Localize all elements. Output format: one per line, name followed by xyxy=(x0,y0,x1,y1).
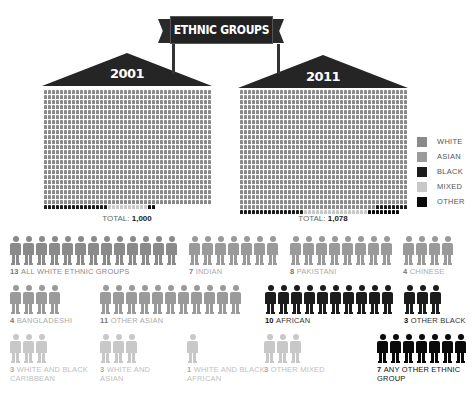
person-icon xyxy=(264,170,267,174)
person-icon xyxy=(100,125,103,129)
person-icon xyxy=(112,195,115,199)
person-icon xyxy=(280,190,283,194)
person-icon xyxy=(108,115,111,119)
person-icon xyxy=(116,185,119,189)
person-icon xyxy=(120,125,123,129)
person-icon xyxy=(152,135,155,139)
person-icon xyxy=(56,90,59,94)
person-icon xyxy=(404,135,407,139)
person-icon xyxy=(136,190,139,194)
person-icon xyxy=(344,120,347,124)
person-icon xyxy=(344,125,347,129)
person-icon xyxy=(328,100,331,104)
person-icon xyxy=(132,205,135,209)
person-icon xyxy=(144,190,147,194)
person-icon xyxy=(292,140,295,144)
person-icon xyxy=(276,150,279,154)
person-icon xyxy=(384,175,387,179)
person-icon xyxy=(208,140,211,144)
person-icon xyxy=(332,100,335,104)
person-icon xyxy=(356,190,359,194)
person-icon xyxy=(132,130,135,134)
person-icon xyxy=(380,95,383,99)
person-icon xyxy=(392,205,395,209)
person-icon xyxy=(308,155,311,159)
person-icon xyxy=(324,190,327,194)
person-icon xyxy=(104,175,107,179)
person-icon xyxy=(336,205,339,209)
person-icon xyxy=(160,120,163,124)
person-icon xyxy=(104,110,107,114)
person-icon xyxy=(152,145,155,149)
person-icon xyxy=(188,205,191,209)
person-icon xyxy=(196,160,199,164)
person-icon xyxy=(184,105,187,109)
person-icon xyxy=(248,120,251,124)
person-icon xyxy=(132,95,135,99)
person-icon xyxy=(404,130,407,134)
person-icon xyxy=(124,200,127,204)
person-icon xyxy=(276,140,279,144)
person-icon xyxy=(308,190,311,194)
person-icon xyxy=(88,100,91,104)
person-icon xyxy=(116,90,119,94)
person-icon xyxy=(324,180,327,184)
person-icon xyxy=(292,155,295,159)
group-white-black-caribbean: 3 WHITE AND BLACK CARIBBEAN xyxy=(10,334,102,383)
person-icon xyxy=(108,155,111,159)
person-icon xyxy=(256,130,259,134)
person-icon xyxy=(268,100,271,104)
person-icon xyxy=(132,145,135,149)
person-icon xyxy=(80,165,83,169)
person-icon xyxy=(176,205,179,209)
person-icon xyxy=(396,200,399,204)
person-icon xyxy=(372,190,375,194)
person-icon xyxy=(200,170,203,174)
person-icon xyxy=(88,175,91,179)
person-icon xyxy=(252,170,255,174)
person-icon xyxy=(356,185,359,189)
group-label: 3 WHITE AND ASIAN xyxy=(100,365,170,383)
person-icon xyxy=(172,200,175,204)
person-icon xyxy=(272,155,275,159)
person-icon xyxy=(332,105,335,109)
person-icon xyxy=(256,170,259,174)
person-icon xyxy=(328,105,331,109)
person-icon xyxy=(360,180,363,184)
person-icon xyxy=(372,120,375,124)
person-icon xyxy=(104,120,107,124)
person-icon xyxy=(396,140,399,144)
person-icon xyxy=(304,180,307,184)
person-icon xyxy=(312,205,315,209)
person-icon xyxy=(360,205,363,209)
person-icon xyxy=(196,100,199,104)
person-icon xyxy=(44,205,47,209)
person-icon xyxy=(200,125,203,129)
person-icon xyxy=(384,120,387,124)
person-icon xyxy=(100,195,103,199)
person-icon xyxy=(364,150,367,154)
person-icon xyxy=(316,205,319,209)
person-icon xyxy=(76,155,79,159)
person-icon xyxy=(292,90,295,94)
person-icon xyxy=(88,236,99,266)
person-icon xyxy=(132,150,135,154)
person-icon xyxy=(284,100,287,104)
person-icon xyxy=(152,130,155,134)
person-icon xyxy=(200,140,203,144)
person-icon xyxy=(256,190,259,194)
person-icon xyxy=(336,100,339,104)
person-icon xyxy=(188,140,191,144)
person-icon xyxy=(128,90,131,94)
person-icon xyxy=(340,190,343,194)
person-icon xyxy=(372,175,375,179)
person-icon xyxy=(160,190,163,194)
person-icon xyxy=(144,195,147,199)
person-icon xyxy=(176,140,179,144)
person-icon xyxy=(120,115,123,119)
person-icon xyxy=(288,175,291,179)
person-icon xyxy=(44,120,47,124)
person-icon xyxy=(108,160,111,164)
person-icon xyxy=(240,95,243,99)
person-icon xyxy=(140,175,143,179)
